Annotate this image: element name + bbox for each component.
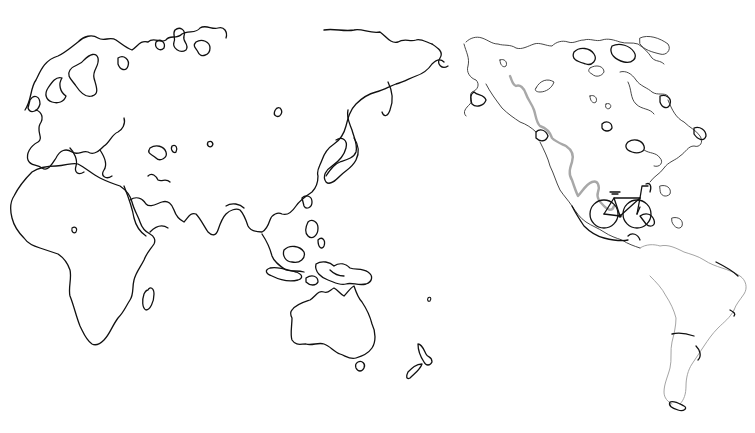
- asia-coast: [130, 29, 448, 234]
- central-america-coast: [572, 206, 654, 241]
- new-zealand-coast: [407, 297, 432, 378]
- bike-route: [510, 76, 614, 210]
- africa-coast: [11, 163, 170, 344]
- europe-coast: [25, 27, 227, 178]
- australia-coast: [291, 286, 376, 371]
- south-america-coast: [640, 245, 746, 411]
- north-america-coast: [464, 36, 706, 248]
- world-map: [0, 0, 755, 433]
- southeast-asia-coast: [262, 196, 372, 285]
